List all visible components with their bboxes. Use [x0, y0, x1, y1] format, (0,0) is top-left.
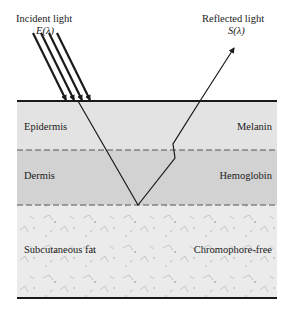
layer-label-dermis: Dermis [24, 170, 55, 181]
layer-label-epidermis: Epidermis [24, 121, 67, 132]
reflected-light-symbol: S(λ) [228, 25, 245, 37]
skin-light-diagram: Incident light E(λ) Reflected light S(λ)… [0, 0, 290, 316]
layer-label-subcutaneous-fat: Subcutaneous fat [24, 244, 96, 255]
incident-light-label: Incident light [16, 13, 72, 24]
reflected-light-arrow [200, 48, 234, 101]
incident-light-symbol: E(λ) [35, 25, 54, 37]
reflected-light-label: Reflected light [202, 13, 264, 24]
chromophore-label-melanin: Melanin [237, 121, 273, 132]
chromophore-label-chromophore-free: Chromophore-free [194, 244, 272, 255]
incident-light-arrows [33, 33, 90, 100]
chromophore-label-hemoglobin: Hemoglobin [220, 170, 273, 181]
